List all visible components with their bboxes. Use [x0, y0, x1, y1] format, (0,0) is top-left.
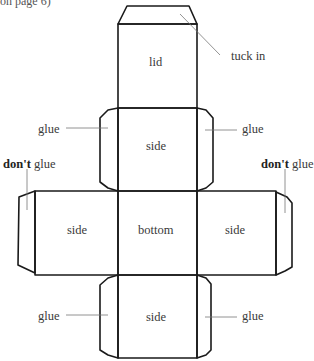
dont-right-rest: glue — [289, 157, 314, 171]
glue-tab-upper-left — [100, 108, 118, 191]
dont-glue-right-label: don't glue — [261, 158, 313, 171]
glue-upper-right-label: glue — [242, 123, 264, 136]
leader-tuck-in — [180, 14, 220, 55]
side-right-label: side — [225, 224, 245, 237]
side-bottom-label: side — [146, 311, 166, 324]
bottom-label: bottom — [138, 224, 173, 237]
glue-lower-right-label: glue — [242, 310, 264, 323]
dont-glue-tab-left — [18, 191, 35, 273]
glue-tab-lower-left — [100, 275, 118, 358]
dont-glue-left-label: don't glue — [3, 158, 55, 171]
tuck-in-tab — [118, 6, 197, 24]
dont-glue-tab-right — [276, 192, 292, 275]
glue-tab-lower-right — [197, 275, 211, 358]
tuck-in-label: tuck in — [231, 50, 265, 63]
side-top-label: side — [146, 140, 166, 153]
dont-left-bold: don't — [3, 157, 31, 171]
dont-left-rest: glue — [31, 157, 56, 171]
glue-tab-upper-right — [197, 108, 213, 191]
side-left-label: side — [67, 224, 87, 237]
glue-lower-left-label: glue — [38, 310, 60, 323]
dont-right-bold: don't — [261, 157, 289, 171]
glue-upper-left-label: glue — [38, 123, 60, 136]
lid-label: lid — [149, 56, 162, 69]
